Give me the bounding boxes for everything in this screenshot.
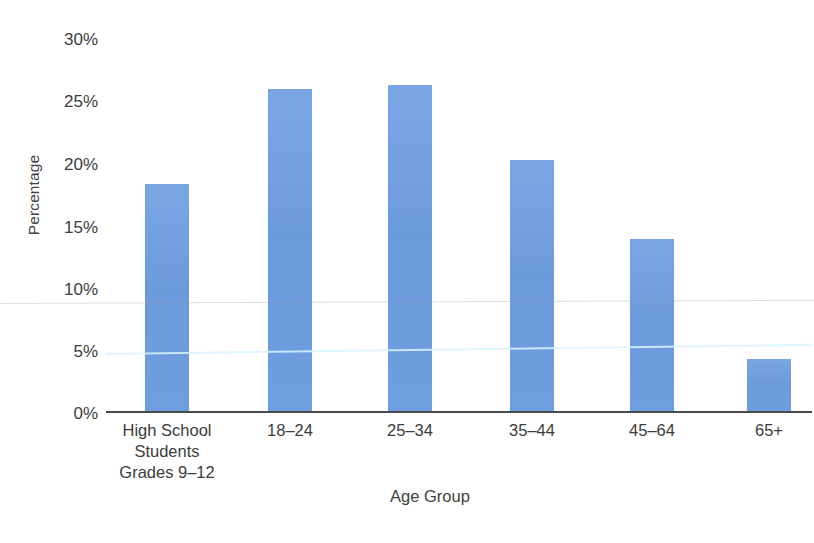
y-tick-label: 15%: [38, 219, 98, 236]
plot-area: [106, 30, 812, 412]
bar-chart: Percentage 30% 25% 20% 15% 10% 5% 0% Hig…: [0, 0, 814, 543]
bar-18-24: [268, 89, 312, 412]
x-axis-line: [106, 411, 812, 413]
bar-65-plus: [747, 359, 791, 412]
x-tick-line: Grades 9–12: [92, 462, 242, 483]
x-axis-title: Age Group: [0, 487, 814, 506]
x-tick-line: Students: [92, 441, 242, 462]
y-tick-label: 25%: [38, 93, 98, 110]
bar-high-school-students: [145, 184, 189, 412]
x-tick-line: 65+: [694, 420, 814, 441]
y-tick-label: 20%: [38, 156, 98, 173]
y-axis-tick-labels: 30% 25% 20% 15% 10% 5% 0%: [40, 0, 98, 543]
y-tick-label: 10%: [38, 281, 98, 298]
x-tick-label-65-plus: 65+: [694, 420, 814, 441]
y-tick-label: 0%: [38, 405, 98, 422]
y-tick-label: 5%: [38, 343, 98, 360]
y-tick-label: 30%: [38, 31, 98, 48]
bar-25-34: [388, 85, 432, 412]
bar-35-44: [510, 160, 554, 412]
bar-45-64: [630, 239, 674, 412]
